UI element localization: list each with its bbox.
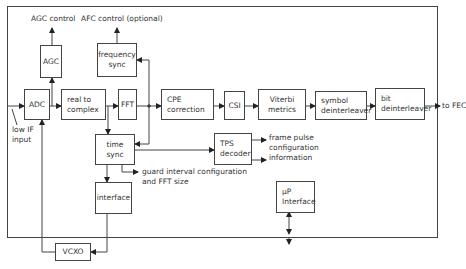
up-interface-line1: μP (282, 187, 316, 197)
adc-label: ADC (29, 100, 45, 110)
time-sync-block: timesync (95, 134, 135, 165)
viterbi-metrics-block: Viterbimetrics (258, 89, 306, 120)
vcxo-block: VCXO (55, 243, 91, 261)
guard-interval-line1: guard interval configuration (142, 167, 247, 177)
time-sync-line1: time (106, 140, 123, 150)
agc-label: AGC (43, 57, 59, 67)
low-if-input-label: low IF input (12, 125, 34, 145)
bit-deint-line1: bit (381, 94, 431, 104)
frequency-sync-line2: sync (98, 60, 136, 70)
interface-block: interface (95, 182, 132, 214)
tps-decoder-block: TPSdecoder (214, 133, 252, 165)
up-interface-line2: Interface (282, 197, 316, 207)
vcxo-label: VCXO (63, 247, 84, 257)
agc-control-label: AGC control (31, 14, 75, 24)
adc-block: ADC (24, 89, 50, 120)
viterbi-line2: metrics (268, 105, 296, 115)
tps-line1: TPS (220, 139, 251, 149)
symbol-deinterleaver-block: symboldeinterleaver (315, 91, 367, 120)
to-fec-label: to FEC (442, 101, 466, 111)
csi-block: CSI (224, 91, 245, 120)
fft-label: FFT (121, 100, 134, 110)
real-to-complex-block: real tocomplex (61, 89, 106, 120)
cpe-line2: correction (167, 105, 205, 115)
viterbi-line1: Viterbi (268, 95, 296, 105)
cpe-line1: CPE (167, 95, 205, 105)
symbol-deint-line1: symbol (321, 96, 371, 106)
frequency-sync-block: frequencysync (97, 43, 137, 77)
configuration-label: configuration (269, 143, 319, 153)
frame-pulse-label: frame pulse (269, 133, 319, 143)
agc-block: AGC (40, 45, 62, 78)
low-if-line1: low IF (12, 125, 34, 135)
csi-label: CSI (228, 101, 240, 111)
symbol-deint-line2: deinterleaver (321, 106, 371, 116)
guard-interval-label: guard interval configuration and FFT siz… (142, 167, 247, 187)
chip-boundary (8, 7, 438, 238)
low-if-line2: input (12, 135, 34, 145)
frequency-sync-line1: frequency (98, 50, 136, 60)
cpe-correction-block: CPEcorrection (161, 89, 214, 120)
bit-deinterleaver-block: bitdeinterleaver (375, 88, 425, 120)
bit-deint-line2: deinterleaver (381, 104, 431, 114)
information-label: information (269, 153, 319, 163)
time-sync-line2: sync (106, 150, 123, 160)
tps-outputs-label: frame pulse configuration information (269, 133, 319, 163)
real-to-complex-line1: real to (67, 95, 99, 105)
interface-label: interface (97, 193, 130, 203)
afc-control-label: AFC control (optional) (81, 14, 163, 24)
fft-block: FFT (118, 89, 137, 120)
up-interface-block: μPInterface (276, 181, 315, 213)
real-to-complex-line2: complex (67, 105, 99, 115)
tps-line2: decoder (220, 149, 251, 159)
guard-interval-line2: and FFT size (142, 177, 247, 187)
